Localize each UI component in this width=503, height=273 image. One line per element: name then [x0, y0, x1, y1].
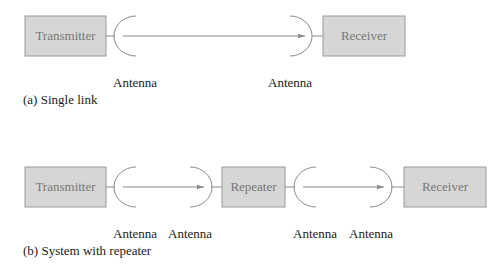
- antenna-label: Antenna: [349, 226, 393, 241]
- antenna-label: Antenna: [268, 75, 312, 90]
- repeater-block: Repeater: [222, 167, 285, 207]
- receiver-label-b: Receiver: [422, 179, 469, 194]
- receiver-label-a: Receiver: [341, 28, 388, 43]
- receiver-block-a: Receiver: [323, 16, 405, 56]
- caption-b: (b) System with repeater: [23, 243, 152, 258]
- transmitter-label-a: Transmitter: [35, 28, 96, 43]
- antenna-label: Antenna: [113, 226, 157, 241]
- antenna-label: Antenna: [293, 226, 337, 241]
- diagram-system-with-repeater: Transmitter Repeater Receiver Antenna An…: [23, 167, 486, 258]
- antenna-label: Antenna: [113, 75, 157, 90]
- transmitter-block-a: Transmitter: [25, 16, 106, 56]
- transmitter-block-b: Transmitter: [25, 167, 106, 207]
- transmitter-label-b: Transmitter: [35, 179, 96, 194]
- antenna-label: Antenna: [168, 226, 212, 241]
- receiver-block-b: Receiver: [404, 167, 486, 207]
- diagram-single-link: Transmitter Receiver Antenna Antenna (a)…: [23, 16, 405, 107]
- repeater-label: Repeater: [230, 179, 277, 194]
- caption-a: (a) Single link: [23, 92, 98, 107]
